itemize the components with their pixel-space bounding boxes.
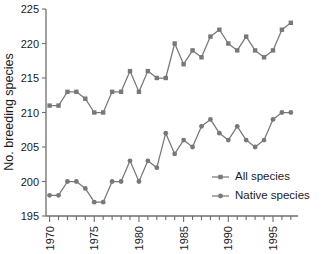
data-point-marker — [101, 200, 106, 205]
line-chart-plot: 195200205210215220225 197019751980198519… — [0, 0, 322, 254]
data-point-marker — [83, 97, 87, 101]
data-point-marker — [235, 124, 240, 129]
y-axis-tick-label: 210 — [21, 107, 39, 119]
legend-marker-square — [218, 175, 222, 179]
data-point-marker — [92, 200, 97, 205]
data-point-marker — [163, 131, 168, 136]
data-point-marker — [74, 179, 79, 184]
data-point-marker — [65, 90, 69, 94]
x-axis-tick-label: 1975 — [88, 226, 100, 250]
data-point-marker — [226, 138, 231, 143]
data-point-marker — [119, 90, 123, 94]
chart-figure: 195200205210215220225 197019751980198519… — [0, 0, 322, 254]
data-point-marker — [208, 117, 213, 122]
data-point-marker — [145, 158, 150, 163]
x-axis-tick-label: 1980 — [133, 226, 145, 250]
data-point-marker — [280, 110, 285, 115]
data-point-marker — [92, 110, 96, 114]
data-point-marker — [253, 145, 258, 150]
data-point-marker — [244, 34, 248, 38]
data-point-marker — [235, 48, 239, 52]
series-all-species — [47, 21, 293, 115]
x-axis-tick-label: 1970 — [44, 226, 56, 250]
x-axis-tick-labels: 197019751980198519901995 — [44, 226, 279, 250]
data-point-marker — [172, 41, 176, 45]
legend-marker-circle — [218, 194, 223, 199]
legend-item-label: Native species — [235, 189, 310, 201]
data-point-marker — [190, 145, 195, 150]
y-axis-tick-label: 225 — [21, 3, 39, 15]
data-point-marker — [56, 103, 60, 107]
chart-legend: All speciesNative species — [212, 170, 310, 201]
x-axis-tick-label: 1990 — [222, 226, 234, 250]
data-point-marker — [226, 41, 230, 45]
data-point-marker — [208, 34, 212, 38]
data-point-marker — [262, 55, 266, 59]
data-point-marker — [137, 90, 141, 94]
data-point-marker — [154, 165, 159, 170]
data-point-marker — [199, 55, 203, 59]
data-point-marker — [199, 124, 204, 129]
data-point-marker — [128, 158, 133, 163]
data-point-marker — [271, 117, 276, 122]
data-point-marker — [155, 76, 159, 80]
data-point-marker — [110, 90, 114, 94]
y-axis-tick-label: 215 — [21, 72, 39, 84]
data-point-marker — [280, 28, 284, 32]
legend-item-all-species[interactable]: All species — [212, 170, 290, 182]
x-axis-tick-label: 1985 — [178, 226, 190, 250]
data-point-marker — [288, 110, 293, 115]
data-point-marker — [101, 110, 105, 114]
y-axis-tick-label: 220 — [21, 38, 39, 50]
data-point-marker — [137, 179, 142, 184]
data-point-marker — [164, 76, 168, 80]
legend-item-label: All species — [235, 170, 290, 182]
data-point-marker — [83, 186, 88, 191]
data-point-marker — [47, 193, 52, 198]
data-point-marker — [146, 69, 150, 73]
data-point-marker — [74, 90, 78, 94]
data-point-marker — [217, 28, 221, 32]
y-axis-tick-labels: 195200205210215220225 — [21, 3, 39, 222]
data-point-marker — [217, 131, 222, 136]
data-point-marker — [289, 21, 293, 25]
y-axis-title: No. breeding species — [2, 53, 16, 170]
data-point-marker — [181, 138, 186, 143]
legend-item-native-species[interactable]: Native species — [212, 189, 310, 201]
data-point-marker — [253, 48, 257, 52]
data-point-marker — [47, 103, 51, 107]
y-axis-tick-label: 200 — [21, 176, 39, 188]
data-point-marker — [244, 138, 249, 143]
x-axis-tick-label: 1995 — [267, 226, 279, 250]
data-point-marker — [119, 179, 124, 184]
y-axis-tick-label: 195 — [21, 210, 39, 222]
data-point-marker — [110, 179, 115, 184]
data-point-marker — [262, 138, 267, 143]
data-point-marker — [181, 62, 185, 66]
y-axis-tick-label: 205 — [21, 141, 39, 153]
data-point-marker — [190, 48, 194, 52]
data-point-marker — [56, 193, 61, 198]
data-point-marker — [128, 69, 132, 73]
data-point-marker — [65, 179, 70, 184]
data-point-marker — [271, 48, 275, 52]
data-point-marker — [172, 152, 177, 157]
